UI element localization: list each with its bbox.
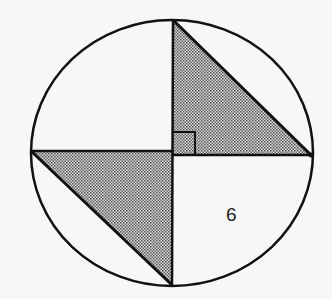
geometry-diagram: 6 <box>0 0 332 299</box>
vertex-point <box>309 153 314 158</box>
region-label: 6 <box>226 204 237 225</box>
vertical-diameter <box>172 20 173 285</box>
